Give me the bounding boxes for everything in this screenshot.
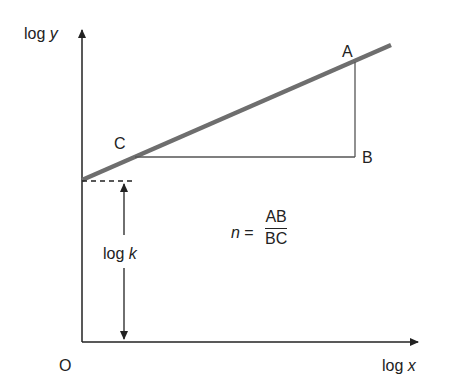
log-k-label-prefix: log <box>103 245 124 262</box>
diagram-canvas <box>0 0 449 386</box>
fraction-denominator: BC <box>265 231 287 248</box>
log-k-label: log k <box>103 244 137 264</box>
origin-label: O <box>59 358 71 374</box>
point-b-label: B <box>362 150 373 166</box>
slope-fraction: AB BC <box>265 209 287 248</box>
point-c-label: C <box>114 136 126 152</box>
slope-formula-lhs: n = <box>231 225 254 241</box>
log-log-line <box>82 45 391 180</box>
fraction-numerator: AB <box>265 209 286 226</box>
formula-equals: = <box>244 224 253 241</box>
x-axis-label: log x <box>382 358 416 374</box>
formula-n: n <box>231 224 240 241</box>
point-a-label: A <box>342 44 353 60</box>
x-axis-label-var: x <box>408 357 416 374</box>
y-axis-label: log y <box>24 26 58 42</box>
log-k-label-var: k <box>129 245 137 262</box>
y-axis-label-prefix: log <box>24 25 45 42</box>
x-axis-label-prefix: log <box>382 357 403 374</box>
fraction-bar <box>265 228 287 230</box>
y-axis-label-var: y <box>50 25 58 42</box>
